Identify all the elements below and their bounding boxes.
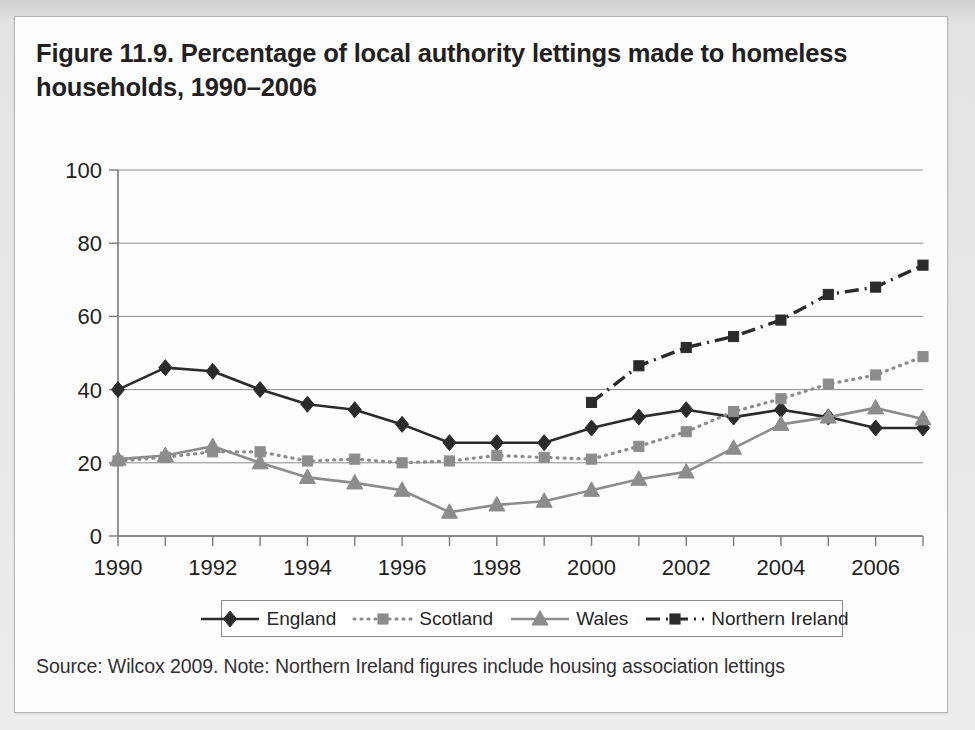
figure-title: Figure 11.9. Percentage of local authori… — [36, 37, 891, 105]
data-point-marker — [206, 363, 219, 379]
x-axis-tick-label: 1998 — [472, 555, 521, 580]
data-point-marker — [869, 420, 882, 436]
x-axis-tick-label: 2006 — [851, 555, 900, 580]
x-axis-tick-label: 1996 — [378, 555, 427, 580]
data-point-marker — [681, 427, 691, 437]
data-point-marker — [111, 382, 124, 398]
series-line — [118, 368, 923, 443]
data-point-marker — [918, 260, 928, 270]
data-point-marker — [159, 360, 172, 376]
data-point-marker — [634, 441, 644, 451]
data-point-marker — [680, 402, 693, 418]
page-background: Figure 11.9. Percentage of local authori… — [0, 0, 975, 730]
chart-legend: EnglandScotlandWalesNorthern Ireland — [221, 600, 843, 637]
x-axis-tick-label: 1994 — [283, 555, 332, 580]
series-line — [118, 357, 923, 463]
data-point-marker — [396, 416, 409, 432]
legend-item-wales: Wales — [509, 601, 644, 636]
series-england — [111, 360, 929, 451]
data-point-marker — [348, 402, 361, 418]
data-point-marker — [776, 315, 786, 325]
data-point-marker — [868, 400, 884, 414]
legend-label: Northern Ireland — [706, 608, 864, 630]
y-axis-tick-label: 0 — [90, 524, 102, 549]
data-point-marker — [586, 397, 596, 407]
source-note: Source: Wilcox 2009. Note: Northern Irel… — [36, 655, 785, 678]
x-axis-tick-label: 2004 — [756, 555, 805, 580]
series-line — [118, 408, 923, 512]
data-point-marker — [205, 438, 221, 452]
legend-item-northern-ireland: Northern Ireland — [644, 601, 864, 636]
legend-swatch — [199, 608, 261, 630]
data-point-marker — [823, 379, 833, 389]
data-point-marker — [443, 435, 456, 451]
data-point-marker — [729, 331, 739, 341]
y-axis-tick-label: 80 — [78, 231, 102, 256]
data-point-marker — [302, 456, 312, 466]
x-axis-tick-label: 2000 — [567, 555, 616, 580]
x-axis-tick-label: 1990 — [94, 555, 143, 580]
legend-label: Scotland — [414, 608, 509, 630]
figure-card: Figure 11.9. Percentage of local authori… — [14, 16, 948, 713]
data-point-marker — [586, 454, 596, 464]
data-point-marker — [224, 611, 237, 627]
legend-label: Wales — [571, 608, 644, 630]
y-axis-tick-label: 20 — [78, 451, 102, 476]
data-point-marker — [823, 289, 833, 299]
data-point-marker — [350, 454, 360, 464]
x-axis-tick-label: 2002 — [662, 555, 711, 580]
y-axis-tick-label: 60 — [78, 304, 102, 329]
data-point-marker — [538, 435, 551, 451]
legend-label: England — [261, 608, 352, 630]
series-northern-ireland — [586, 260, 928, 407]
data-point-marker — [301, 396, 314, 412]
data-point-marker — [918, 352, 928, 362]
data-point-marker — [670, 613, 680, 623]
legend-item-england: England — [199, 601, 352, 636]
data-point-marker — [678, 464, 694, 478]
data-point-marker — [871, 282, 881, 292]
legend-swatch — [509, 608, 571, 630]
data-point-marker — [492, 450, 502, 460]
data-point-marker — [397, 458, 407, 468]
data-point-marker — [632, 409, 645, 425]
data-point-marker — [378, 613, 388, 623]
y-axis-tick-label: 40 — [78, 378, 102, 403]
data-point-marker — [539, 452, 549, 462]
data-point-marker — [871, 370, 881, 380]
series-scotland — [113, 352, 928, 468]
data-point-marker — [253, 382, 266, 398]
legend-swatch — [352, 608, 414, 630]
data-point-marker — [729, 407, 739, 417]
x-axis-tick-label: 1992 — [188, 555, 237, 580]
series-wales — [110, 400, 931, 519]
legend-swatch — [644, 608, 706, 630]
data-point-marker — [634, 361, 644, 371]
y-axis-tick-label: 100 — [65, 158, 102, 183]
data-point-marker — [585, 420, 598, 436]
chart-plot-area: 0204060801001990199219941996199820002002… — [15, 143, 949, 603]
data-point-marker — [490, 435, 503, 451]
line-chart: 0204060801001990199219941996199820002002… — [15, 143, 949, 603]
data-point-marker — [726, 440, 742, 454]
data-point-marker — [444, 456, 454, 466]
legend-item-scotland: Scotland — [352, 601, 509, 636]
data-point-marker — [776, 394, 786, 404]
data-point-marker — [681, 342, 691, 352]
